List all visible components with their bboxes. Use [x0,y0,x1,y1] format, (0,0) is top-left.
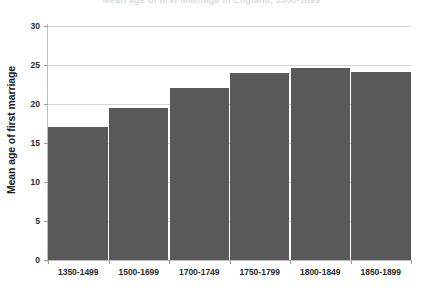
bar[interactable] [170,88,229,260]
y-tick-label: 25 [14,61,40,70]
x-tick-label: 1850-1899 [351,268,412,277]
x-tick-label: 1500-1699 [109,268,170,277]
x-tick-mark [411,260,412,264]
bar[interactable] [48,127,108,260]
chart-title: Mean age of first marriage in England, 1… [0,0,423,6]
y-tick-label: 20 [14,100,40,109]
bar-rect [48,127,108,260]
bar-rect [291,68,350,260]
bar-rect [170,88,229,260]
bar[interactable] [291,68,350,260]
y-tick-mark [44,104,48,105]
y-tick-label: 15 [14,139,40,148]
y-tick-mark [44,26,48,27]
y-axis-title-label: Mean age of first marriage [5,66,17,194]
bar-rect [351,72,411,260]
x-tick-label: 1350-1499 [48,268,109,277]
y-tick-label: 5 [14,217,40,226]
y-tick-label: 10 [14,178,40,187]
x-tick-mark [351,260,352,264]
bar[interactable] [109,108,168,260]
x-tick-label: 1700-1749 [169,268,230,277]
y-tick-mark [44,221,48,222]
bars [48,26,411,260]
y-tick-mark [44,182,48,183]
bar-rect [109,108,168,260]
x-tick-mark [290,260,291,264]
plot-area [48,26,411,260]
x-tick-label: 1800-1849 [290,268,351,277]
y-tick-label: 0 [14,256,40,265]
bar[interactable] [351,72,411,260]
x-tick-mark [48,260,49,264]
x-tick-label: 1750-1799 [230,268,291,277]
bar-rect [230,73,289,260]
y-tick-mark [44,65,48,66]
x-tick-mark [230,260,231,264]
x-tick-mark [109,260,110,264]
x-tick-mark [169,260,170,264]
y-tick-mark [44,143,48,144]
bar-chart: Mean age of first marriage in England, 1… [0,0,423,295]
bar[interactable] [230,73,289,260]
y-tick-label: 30 [14,22,40,31]
